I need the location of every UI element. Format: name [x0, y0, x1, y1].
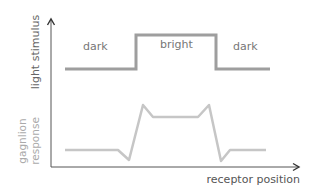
- receptive-field-diagram: dark bright dark light stimulus gagnlion…: [0, 0, 315, 193]
- ganglion-response-trace: [65, 105, 266, 161]
- region-label-dark-left: dark: [83, 40, 108, 53]
- region-label-dark-right: dark: [233, 40, 258, 53]
- y-axis-label-response-line1: gagnlion: [16, 118, 28, 163]
- y-axis-label-light-stimulus: light stimulus: [29, 15, 42, 90]
- y-axis-label-response-line2: response: [29, 117, 41, 165]
- x-axis-label: receptor position: [207, 173, 301, 186]
- region-label-bright: bright: [160, 38, 194, 51]
